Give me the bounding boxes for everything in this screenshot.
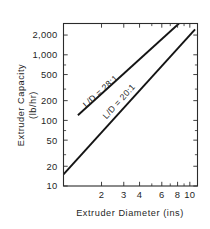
y-tick-label: 1,000 bbox=[33, 49, 58, 60]
x-tick-label: 2 bbox=[99, 189, 105, 200]
y-axis-title-line1: Extruder Capacity bbox=[16, 64, 26, 146]
y-tick-label: 20 bbox=[46, 161, 57, 172]
chart-figure: 1020501002005001,0002,000 2346810 L/D = … bbox=[0, 0, 210, 229]
y-tick-label: 100 bbox=[41, 115, 58, 126]
x-tick-label: 6 bbox=[159, 189, 165, 200]
y-tick-label: 200 bbox=[41, 95, 58, 106]
x-tick-label: 10 bbox=[184, 189, 195, 200]
loglog-plot: 1020501002005001,0002,000 2346810 L/D = … bbox=[0, 0, 210, 229]
x-tick-label: 8 bbox=[175, 189, 181, 200]
x-axis-title: Extruder Diameter (ins) bbox=[76, 208, 184, 218]
y-tick-label: 50 bbox=[46, 135, 57, 146]
x-tick-label: 3 bbox=[121, 189, 127, 200]
y-tick-label: 10 bbox=[46, 180, 57, 191]
x-tick-label: 4 bbox=[137, 189, 143, 200]
y-tick-label: 2,000 bbox=[33, 29, 58, 40]
y-axis-title-line2: (lb/hr) bbox=[28, 91, 38, 119]
y-tick-label: 500 bbox=[41, 69, 58, 80]
